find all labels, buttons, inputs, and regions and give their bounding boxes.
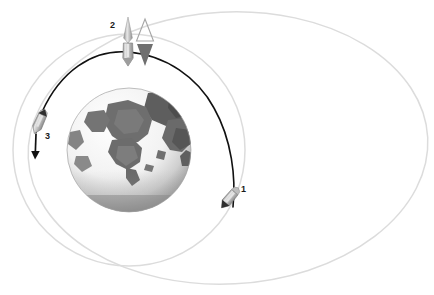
delta-v-triangle-filled-down (137, 44, 153, 66)
orbital-transfer-illustration (0, 0, 434, 295)
delta-v-triangle-outline-up (137, 19, 154, 41)
label-point-2: 2 (110, 21, 115, 30)
thrust-spike-up (124, 17, 133, 43)
label-point-1: 1 (241, 185, 246, 194)
spacecraft-marker-2 (123, 17, 133, 67)
velocity-arrow-3 (35, 134, 36, 156)
diagram-canvas: 1 2 3 (0, 0, 434, 295)
label-point-3: 3 (45, 132, 50, 141)
earth-globe (60, 88, 200, 225)
